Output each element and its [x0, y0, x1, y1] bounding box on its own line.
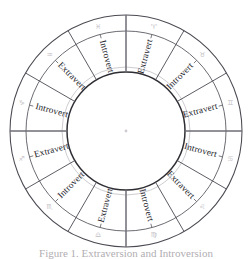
center-mark	[125, 130, 128, 133]
inner-virgo-glyph: ♍	[140, 188, 144, 193]
virgo-glyph: ♍	[151, 231, 157, 239]
inner-pisces-glyph: ♓	[108, 68, 112, 73]
band-tick-0	[151, 34, 152, 38]
band-tick-3	[219, 156, 223, 157]
inner-capricorn-glyph: ♑	[64, 112, 68, 117]
libra-glyph: ♎	[95, 231, 101, 239]
band-tick-2	[219, 105, 223, 106]
inner-taurus-glyph: ♉	[168, 84, 172, 89]
zodiac-wheel-figure: Extravert♈♈Introvert♉♉Extravert♊♊Introve…	[0, 0, 252, 259]
sagittarius-glyph: ♐	[19, 155, 25, 163]
taurus-glyph: ♉	[199, 51, 205, 59]
band-tick-5	[151, 224, 152, 228]
aries-glyph: ♈	[151, 23, 157, 31]
aquarius-glyph: ♒	[46, 51, 52, 59]
sector-label-3: Introvert	[183, 141, 218, 159]
inner-aquarius-glyph: ♒	[80, 84, 84, 89]
inner-leo-glyph: ♌	[168, 172, 172, 177]
wheel-root: Extravert♈♈Introvert♉♉Extravert♊♊Introve…	[10, 15, 242, 247]
band-tick-7	[55, 199, 58, 202]
wheel-svg: Extravert♈♈Introvert♉♉Extravert♊♊Introve…	[0, 0, 252, 259]
scorpio-glyph: ♏	[46, 203, 53, 211]
inner-cancer-glyph: ♋	[184, 144, 188, 149]
sector-label-0: Extravert	[136, 38, 155, 75]
inner-aries-glyph: ♈	[140, 68, 144, 73]
band-tick-11	[100, 34, 101, 38]
band-tick-9	[29, 105, 33, 106]
capricorn-glyph: ♑	[19, 99, 25, 107]
pisces-glyph: ♓	[95, 23, 101, 31]
inner-sagittarius-glyph: ♐	[64, 144, 68, 149]
leo-glyph: ♌	[199, 203, 205, 211]
band-tick-6	[100, 224, 101, 228]
inner-scorpio-glyph: ♏	[80, 172, 84, 177]
figure-caption: Figure 1. Extraversion and Introversion	[0, 247, 252, 259]
band-tick-4	[194, 199, 197, 202]
band-tick-10	[55, 60, 58, 63]
inner-gemini-glyph: ♊	[184, 112, 188, 117]
cancer-glyph: ♋	[227, 155, 233, 163]
gemini-glyph: ♊	[227, 99, 233, 107]
band-tick-8	[29, 156, 33, 157]
inner-libra-glyph: ♎	[108, 188, 112, 193]
band-tick-1	[194, 60, 197, 63]
